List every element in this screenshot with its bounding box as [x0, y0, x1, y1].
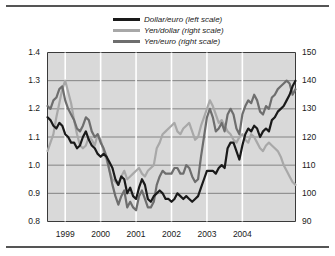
figure: Dollar/euro (left scale) Yen/dollar (rig…: [0, 0, 335, 256]
y-axis-left-tick-label: 0.8: [14, 216, 40, 226]
y-axis-left-tick-label: 1.4: [14, 47, 40, 57]
x-axis-tick-label: 2004: [225, 229, 259, 239]
x-axis-tick-label: 2003: [190, 229, 224, 239]
y-axis-left-tick-label: 0.9: [14, 188, 40, 198]
line-chart-svg: [0, 0, 335, 256]
y-axis-left-tick-label: 1.1: [14, 132, 40, 142]
x-axis-tick-label: 2000: [84, 229, 118, 239]
y-axis-right-tick-label: 130: [302, 103, 328, 113]
x-axis-tick-label: 1999: [48, 229, 82, 239]
y-axis-left-tick-label: 1.0: [14, 160, 40, 170]
y-axis-right-tick-label: 150: [302, 47, 328, 57]
y-axis-left-tick-label: 1.2: [14, 103, 40, 113]
y-axis-right-tick-label: 110: [302, 160, 328, 170]
y-axis-right-tick-label: 90: [302, 216, 328, 226]
y-axis-right-tick-label: 120: [302, 132, 328, 142]
plot-area-wrapper: [0, 0, 335, 256]
y-axis-right-tick-label: 100: [302, 188, 328, 198]
y-axis-right-tick-label: 140: [302, 75, 328, 85]
x-axis-tick-label: 2001: [119, 229, 153, 239]
x-axis-tick-label: 2002: [155, 229, 189, 239]
y-axis-left-tick-label: 1.3: [14, 75, 40, 85]
